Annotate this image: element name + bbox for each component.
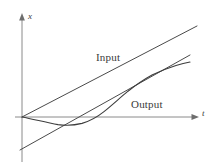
x-axis-arrow-icon <box>192 114 200 120</box>
y-axis-label: x <box>28 12 32 21</box>
plot-canvas <box>0 0 215 166</box>
figure-container: Input Output x t <box>0 0 215 166</box>
output-label: Output <box>131 99 163 110</box>
y-axis-arrow-icon <box>19 13 25 21</box>
input-ramp-line <box>22 26 197 117</box>
input-label: Input <box>96 52 120 63</box>
output-response-curve <box>22 62 190 125</box>
x-axis-label: t <box>202 109 205 118</box>
